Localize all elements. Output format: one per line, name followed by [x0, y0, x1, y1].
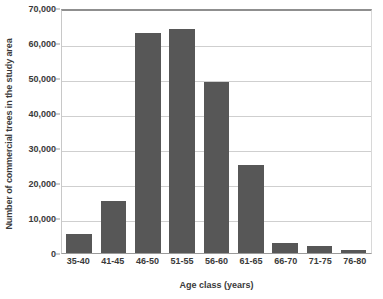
y-tick-label: 60,000	[28, 39, 56, 49]
y-tick-mark	[56, 114, 60, 115]
x-tick-label: 46-50	[130, 256, 165, 274]
y-tick-mark	[56, 219, 60, 220]
y-axis-title-label: Number of commercial trees in the study …	[4, 38, 14, 229]
y-tick-mark	[56, 9, 60, 10]
y-tick-mark	[56, 44, 60, 45]
y-tick-mark	[56, 79, 60, 80]
x-tick-label: 35-40	[61, 256, 96, 274]
y-tick-mark	[56, 254, 60, 255]
x-tick-label: 56-60	[199, 256, 234, 274]
bar	[307, 246, 332, 253]
x-axis-title: Age class (years)	[61, 280, 372, 290]
x-tick-label: 41-45	[96, 256, 131, 274]
bar-slot	[268, 11, 302, 253]
bar-slot	[165, 11, 199, 253]
x-axis-tick-labels: 35-4041-4546-5051-5556-6061-6566-7071-75…	[61, 256, 372, 274]
y-tick-label: 20,000	[28, 179, 56, 189]
bar-slot	[302, 11, 336, 253]
bar	[238, 165, 263, 253]
y-axis-tick-labels: 010,00020,00030,00040,00050,00060,00070,…	[16, 4, 60, 254]
y-tick-label: 70,000	[28, 4, 56, 14]
bar-slot	[234, 11, 268, 253]
bar-slot	[199, 11, 233, 253]
bar	[272, 243, 297, 254]
bar	[341, 250, 366, 253]
y-tick-label: 30,000	[28, 144, 56, 154]
y-tick-label: 50,000	[28, 74, 56, 84]
y-tick-mark	[56, 184, 60, 185]
bar	[66, 234, 91, 253]
bars-layer	[62, 11, 371, 253]
x-tick-label: 76-80	[338, 256, 373, 274]
bar-slot	[96, 11, 130, 253]
bar	[169, 29, 194, 253]
bar	[135, 33, 160, 254]
x-tick-label: 66-70	[268, 256, 303, 274]
bar-slot	[62, 11, 96, 253]
y-tick-mark	[56, 149, 60, 150]
bar-slot	[337, 11, 371, 253]
y-tick-label: 10,000	[28, 214, 56, 224]
y-tick-label: 40,000	[28, 109, 56, 119]
bar	[101, 201, 126, 254]
x-tick-label: 61-65	[234, 256, 269, 274]
plot-area	[61, 9, 372, 254]
x-tick-label: 51-55	[165, 256, 200, 274]
bar	[204, 82, 229, 254]
x-tick-label: 71-75	[303, 256, 338, 274]
bar-slot	[131, 11, 165, 253]
bar-chart: Number of commercial trees in the study …	[0, 0, 383, 299]
